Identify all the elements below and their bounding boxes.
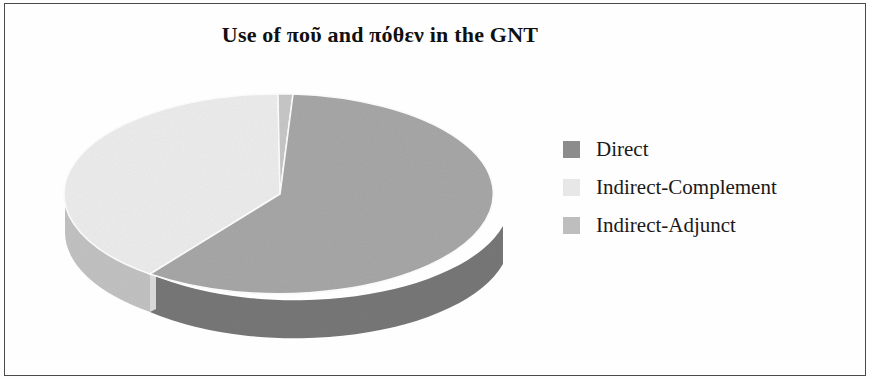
chart-title: Use of ποῦ and πόθεν in the GNT <box>0 22 760 48</box>
chart-legend: Direct Indirect-Complement Indirect-Adju… <box>563 130 858 244</box>
chart-figure: Use of ποῦ and πόθεν in the GNT <box>0 0 870 380</box>
legend-item-indirect-complement: Indirect-Complement <box>563 168 858 206</box>
pie-slice-side-separator <box>150 271 156 312</box>
legend-swatch-icon-indirect-complement <box>563 179 580 196</box>
legend-label-direct: Direct <box>596 139 648 160</box>
legend-label-indirect-adjunct: Indirect-Adjunct <box>596 215 736 236</box>
legend-item-indirect-adjunct: Indirect-Adjunct <box>563 206 858 244</box>
pie-chart-svg <box>55 62 525 342</box>
legend-label-indirect-complement: Indirect-Complement <box>596 177 777 198</box>
legend-swatch-icon-indirect-adjunct <box>563 217 580 234</box>
legend-item-direct: Direct <box>563 130 858 168</box>
pie-chart <box>55 62 525 342</box>
legend-swatch-icon-direct <box>563 141 580 158</box>
